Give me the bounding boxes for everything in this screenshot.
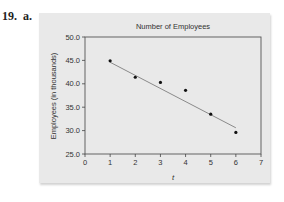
y-tick-label: 25.0	[65, 150, 80, 159]
x-tick-label: 7	[259, 158, 263, 167]
trend-line	[110, 62, 236, 128]
x-axis: 01234567	[83, 154, 263, 167]
data-point	[159, 81, 162, 84]
x-tick-label: 2	[133, 158, 137, 167]
y-tick-label: 50.0	[65, 33, 80, 42]
y-tick-label: 30.0	[65, 126, 80, 135]
x-tick-label: 5	[209, 158, 213, 167]
x-tick-label: 4	[183, 158, 187, 167]
data-point	[209, 113, 212, 116]
y-tick-label: 45.0	[65, 56, 80, 65]
chart-title: Number of Employees	[136, 22, 210, 31]
scatter-chart: Number of Employees 25.030.035.040.045.0…	[0, 0, 284, 202]
x-axis-label: t	[172, 173, 175, 182]
data-points	[109, 59, 238, 134]
data-point	[134, 76, 137, 79]
data-point	[184, 89, 187, 92]
data-point	[234, 131, 237, 134]
y-tick-label: 35.0	[65, 103, 80, 112]
x-tick-label: 1	[108, 158, 112, 167]
y-axis: 25.030.035.040.045.050.0	[65, 33, 85, 159]
x-tick-label: 0	[83, 158, 87, 167]
y-tick-label: 40.0	[65, 79, 80, 88]
data-point	[109, 59, 112, 62]
x-tick-label: 3	[158, 158, 162, 167]
figure: 19. a. Number of Employees 25.030.035.04…	[0, 0, 284, 202]
y-axis-label: Employees (in thousands)	[49, 52, 58, 139]
x-tick-label: 6	[234, 158, 238, 167]
